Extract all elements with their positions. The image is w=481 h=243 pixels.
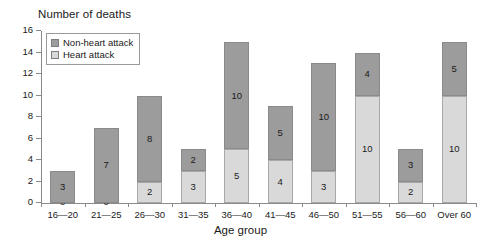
bar-value-label: 8 bbox=[147, 134, 152, 144]
bar-segment-non-heart-attack[interactable]: 8 bbox=[137, 96, 162, 182]
bar-value-label: 10 bbox=[231, 91, 242, 101]
bar-value-label: 3 bbox=[191, 182, 196, 192]
bar-segment-heart-attack[interactable]: 3 bbox=[181, 171, 206, 203]
bar-value-label: 2 bbox=[147, 187, 152, 197]
bar-segment-non-heart-attack[interactable]: 10 bbox=[311, 63, 336, 171]
legend-label-non-heart-attack: Non-heart attack bbox=[63, 37, 133, 49]
legend-swatch-non-heart-attack bbox=[51, 39, 59, 47]
bar-segment-non-heart-attack[interactable]: 3 bbox=[50, 171, 75, 203]
bar-value-label: 5 bbox=[278, 128, 283, 138]
bar-group[interactable]: 07 bbox=[94, 128, 119, 203]
bar-group[interactable]: 105 bbox=[442, 42, 467, 203]
bar-segment-heart-attack[interactable]: 3 bbox=[311, 171, 336, 203]
chart-legend: Non-heart attack Heart attack bbox=[46, 33, 140, 65]
bar-group[interactable]: 510 bbox=[224, 42, 249, 203]
bar-value-label: 10 bbox=[318, 112, 329, 122]
bar-segment-non-heart-attack[interactable]: 7 bbox=[94, 128, 119, 203]
bar-value-label: 3 bbox=[408, 160, 413, 170]
bar-segment-non-heart-attack[interactable]: 3 bbox=[398, 149, 423, 181]
bar-segment-heart-attack[interactable]: 2 bbox=[398, 182, 423, 204]
bar-group[interactable]: 32 bbox=[181, 149, 206, 203]
bar-value-label: 5 bbox=[234, 171, 239, 181]
bar-group[interactable]: 104 bbox=[355, 53, 380, 204]
bar-value-label: 7 bbox=[104, 160, 109, 170]
bar-value-label: 4 bbox=[278, 177, 283, 187]
bar-value-label: 3 bbox=[321, 182, 326, 192]
bar-segment-heart-attack[interactable]: 10 bbox=[442, 96, 467, 204]
bar-segment-heart-attack[interactable]: 2 bbox=[137, 182, 162, 204]
bar-value-label: 4 bbox=[365, 69, 370, 79]
bar-segment-non-heart-attack[interactable]: 5 bbox=[268, 106, 293, 160]
stacked-bar-chart: Number of deaths 0246810121416 Non-heart… bbox=[0, 0, 481, 243]
bar-value-label: 2 bbox=[408, 187, 413, 197]
bar-group[interactable]: 23 bbox=[398, 149, 423, 203]
legend-label-heart-attack: Heart attack bbox=[63, 49, 114, 61]
bar-value-label: 3 bbox=[60, 182, 65, 192]
bar-segment-heart-attack[interactable]: 5 bbox=[224, 149, 249, 203]
bar-segment-heart-attack[interactable]: 10 bbox=[355, 96, 380, 204]
bar-value-label: 5 bbox=[452, 64, 457, 74]
bar-segment-non-heart-attack[interactable]: 10 bbox=[224, 42, 249, 150]
bar-segment-non-heart-attack[interactable]: 4 bbox=[355, 53, 380, 96]
bar-segment-heart-attack[interactable]: 4 bbox=[268, 160, 293, 203]
bar-group[interactable]: 28 bbox=[137, 96, 162, 204]
bar-group[interactable]: 310 bbox=[311, 63, 336, 203]
bar-segment-non-heart-attack[interactable]: 5 bbox=[442, 42, 467, 96]
bar-value-label: 10 bbox=[362, 144, 373, 154]
bar-group[interactable]: 03 bbox=[50, 171, 75, 203]
bar-segment-non-heart-attack[interactable]: 2 bbox=[181, 149, 206, 171]
bar-value-label: 10 bbox=[449, 144, 460, 154]
legend-item-non-heart-attack: Non-heart attack bbox=[51, 37, 133, 49]
bar-value-label: 2 bbox=[191, 155, 196, 165]
bar-group[interactable]: 45 bbox=[268, 106, 293, 203]
legend-swatch-heart-attack bbox=[51, 51, 59, 59]
legend-item-heart-attack: Heart attack bbox=[51, 49, 133, 61]
